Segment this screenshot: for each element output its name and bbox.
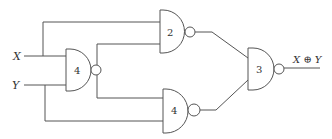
nand-gate-output: 3 xyxy=(248,48,284,90)
left-out-to-gate-2-wire xyxy=(97,44,160,65)
nand-gate-top: 2 xyxy=(160,10,195,53)
input-y: Y xyxy=(12,79,163,121)
nand-gate-top-number: 2 xyxy=(167,27,173,38)
gate-2-to-gate-3-wire xyxy=(195,32,248,58)
gate-4b-to-gate-3-wire xyxy=(200,80,248,110)
input-y-label: Y xyxy=(12,79,21,92)
nand-gate-left: 4 xyxy=(66,49,101,91)
nand-gate-bottom-number: 4 xyxy=(171,105,177,116)
nand-gate-left-number: 4 xyxy=(74,65,80,76)
xor-nand-circuit-diagram: X Y 4 2 4 3 X ⊕ Y xyxy=(0,0,332,139)
input-x-label: X xyxy=(12,50,22,63)
output-label: X ⊕ Y xyxy=(292,54,323,65)
nand-gate-output-bubble xyxy=(274,64,284,74)
nand-gate-output-number: 3 xyxy=(256,64,262,75)
left-out-to-gate-4b-wire xyxy=(97,75,163,98)
x-to-gate-2-wire xyxy=(43,22,160,56)
nand-gate-top-bubble xyxy=(185,27,195,37)
nand-gate-bottom: 4 xyxy=(163,89,200,133)
nand-gate-left-bubble xyxy=(91,65,101,75)
output: X ⊕ Y xyxy=(284,54,323,68)
nand-gate-bottom-bubble xyxy=(188,104,200,116)
y-to-gate-4b-wire xyxy=(45,85,163,121)
